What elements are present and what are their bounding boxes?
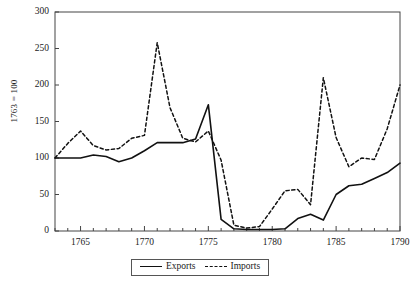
y-tick-label: 0 (23, 225, 49, 235)
y-tick-label: 100 (23, 152, 49, 162)
data-series-group (55, 43, 400, 230)
x-tick-label: 1790 (380, 237, 418, 247)
series-line-imports (55, 43, 400, 228)
legend-swatch-dashed-icon (205, 263, 227, 270)
y-tick-label: 250 (23, 43, 49, 53)
legend-item-exports: Exports (140, 262, 196, 272)
x-tick-label: 1765 (61, 237, 101, 247)
x-tick-label: 1775 (188, 237, 228, 247)
chart-figure: 1763 = 100 050100150200250300 1765177017… (0, 0, 418, 286)
axis-ticks (55, 12, 400, 231)
legend-swatch-solid-icon (140, 263, 162, 270)
y-tick-label: 150 (23, 116, 49, 126)
legend-label-imports: Imports (231, 262, 261, 272)
x-tick-label: 1785 (316, 237, 356, 247)
x-tick-label: 1770 (124, 237, 164, 247)
y-tick-label: 200 (23, 79, 49, 89)
x-tick-label: 1780 (252, 237, 292, 247)
plot-frame (55, 12, 400, 231)
y-tick-label: 50 (23, 189, 49, 199)
legend-label-exports: Exports (166, 262, 196, 272)
legend-item-imports: Imports (205, 262, 261, 272)
chart-legend: Exports Imports (131, 259, 269, 276)
y-tick-label: 300 (23, 6, 49, 16)
